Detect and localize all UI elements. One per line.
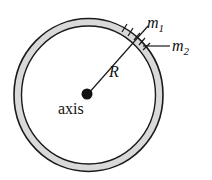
label-m1: m1 — [147, 14, 164, 34]
ring-diagram: m1 m2 R axis — [0, 0, 212, 180]
label-m2: m2 — [172, 37, 190, 57]
label-radius: R — [108, 63, 119, 80]
label-axis: axis — [58, 100, 84, 117]
axis-dot — [82, 89, 93, 100]
